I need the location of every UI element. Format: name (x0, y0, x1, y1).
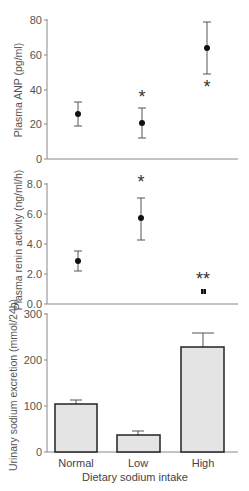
x-tick-low: Low (128, 457, 148, 469)
tick-label: 4.0 (27, 238, 42, 250)
panel-sodium: 300 200 100 0 Urinary sodium excretion (… (7, 299, 238, 483)
y-axis-label: Plasma renin activity (ng/ml/h) (12, 170, 24, 311)
point-high: ** (196, 269, 210, 294)
tick-label: 8.0 (27, 178, 42, 190)
tick-label: 6.0 (27, 208, 42, 220)
bar-low (117, 431, 160, 452)
tick-label: 60 (30, 49, 42, 61)
y-ticks: 300 200 100 0 (24, 308, 47, 458)
tick-label: 0 (36, 153, 42, 165)
y-axis-label: Plasma ANP (pg/ml) (12, 43, 24, 137)
significance-marker: ** (196, 269, 210, 289)
panel-anp: 80 60 40 20 0 Plasma ANP (pg/ml) * (12, 14, 238, 165)
tick-label: 80 (30, 14, 42, 26)
bar-normal (55, 400, 97, 452)
significance-marker: * (203, 77, 210, 97)
panel-renin: 8.0 6.0 4.0 2.0 0.0 Plasma renin activit… (12, 170, 238, 311)
figure: 80 60 40 20 0 Plasma ANP (pg/ml) * (0, 0, 249, 491)
significance-marker: * (138, 87, 145, 107)
point-high: * (203, 22, 211, 97)
x-tick-normal: Normal (58, 457, 93, 469)
tick-label: 40 (30, 84, 42, 96)
tick-label: 200 (24, 354, 42, 366)
y-ticks: 8.0 6.0 4.0 2.0 0.0 (27, 178, 47, 310)
y-axis-label: Urinary sodium excretion (mmol/24h) (7, 299, 19, 471)
point-low: * (138, 87, 146, 138)
tick-label: 300 (24, 308, 42, 320)
significance-marker: * (137, 172, 144, 192)
tick-label: 2.0 (27, 268, 42, 280)
bar-high (181, 333, 224, 452)
point-normal (74, 251, 82, 271)
tick-label: 20 (30, 118, 42, 130)
tick-label: 0 (36, 446, 42, 458)
x-axis-label: Dietary sodium intake (82, 471, 188, 483)
point-normal (74, 102, 82, 126)
x-tick-high: High (192, 457, 215, 469)
point-low: * (137, 172, 145, 240)
y-ticks: 80 60 40 20 0 (30, 14, 47, 165)
tick-label: 100 (24, 400, 42, 412)
